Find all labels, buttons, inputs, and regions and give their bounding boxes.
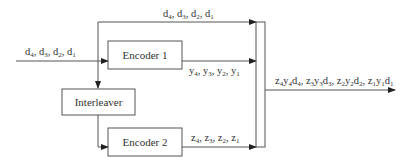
encoder2-label: Encoder 2 bbox=[108, 137, 182, 148]
systematic-signal-label: d4, d3, d2, d1 bbox=[163, 9, 214, 20]
parity1-signal-label: y4, y3, y2, y1 bbox=[189, 66, 240, 77]
interleaver-label: Interleaver bbox=[62, 97, 135, 108]
interleaver-to-encoder2 bbox=[98, 115, 108, 147]
encoder1-label: Encoder 1 bbox=[108, 50, 182, 61]
input-signal-label: d4, d3, d2, d1 bbox=[25, 47, 76, 58]
output-signal-label: z4y4d4, z3y3d3, z2y2d2, z1y1d1 bbox=[275, 76, 393, 87]
parity2-signal-label: z4, z3, z2, z1 bbox=[191, 133, 239, 144]
multiplexer-box bbox=[256, 22, 265, 147]
